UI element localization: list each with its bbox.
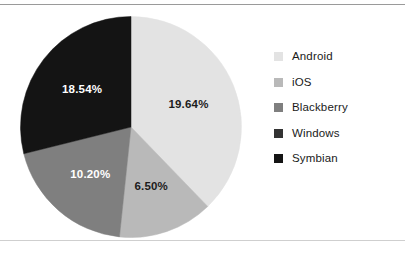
legend-swatch-icon [274, 52, 283, 61]
legend-item-symbian[interactable]: Symbian [274, 146, 399, 172]
chart-legend: AndroidiOSBlackberryWindowsSymbian [274, 44, 399, 172]
top-divider [0, 4, 405, 5]
legend-item-label: Windows [292, 128, 340, 140]
pie-slice-label-ios: 6.50% [134, 180, 168, 192]
pie-slices [20, 16, 241, 237]
legend-swatch-icon [274, 154, 283, 163]
legend-item-android[interactable]: Android [274, 44, 399, 70]
legend-swatch-icon [274, 78, 283, 87]
legend-item-label: Blackberry [292, 102, 348, 114]
legend-swatch-icon [274, 129, 283, 138]
legend-item-label: Android [292, 51, 333, 63]
legend-item-ios[interactable]: iOS [274, 70, 399, 96]
legend-item-label: Symbian [292, 153, 338, 165]
pie-chart-svg: 19.64%6.50%10.20%18.54% [20, 16, 242, 238]
legend-item-blackberry[interactable]: Blackberry [274, 95, 399, 121]
chart-canvas: 19.64%6.50%10.20%18.54% AndroidiOSBlackb… [0, 0, 405, 253]
pie-slice-label-symbian: 18.54% [62, 83, 102, 95]
pie-slice-label-blackberry: 10.20% [70, 168, 110, 180]
pie-slice-label-android: 19.64% [168, 98, 208, 110]
bottom-divider [0, 240, 405, 241]
legend-swatch-icon [274, 103, 283, 112]
legend-item-windows[interactable]: Windows [274, 121, 399, 147]
pie-chart: 19.64%6.50%10.20%18.54% [20, 16, 242, 238]
legend-item-label: iOS [292, 77, 312, 89]
